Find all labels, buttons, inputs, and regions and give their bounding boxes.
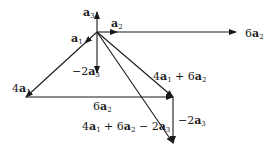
label-6a2-bottom: 6a2 (93, 101, 112, 114)
label-neg2a3-left: −2a3 (72, 66, 100, 79)
label-4a1: 4a1 (12, 83, 31, 96)
label-a1: a1 (71, 33, 83, 46)
label-6a2-top: 6a2 (245, 28, 264, 41)
vector-a1 (85, 32, 97, 43)
label-a3: a3 (83, 7, 95, 20)
label-neg2a3-right: −2a3 (178, 115, 206, 128)
label-a2: a2 (111, 18, 123, 31)
label-4a1-plus-6a2: 4a1 + 6a2 (153, 71, 206, 84)
label-sum: 4a1 + 6a2 − 2a3 (82, 121, 170, 134)
